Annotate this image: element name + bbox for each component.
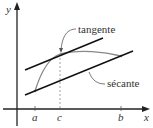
tick-label-b: b <box>118 111 124 123</box>
y-axis-arrow-icon <box>14 2 20 10</box>
y-axis-label: y <box>5 3 11 15</box>
tick-label-a: a <box>32 111 38 123</box>
tangent-leader <box>61 29 76 51</box>
tangent-label: tangente <box>78 23 115 35</box>
x-axis-label: x <box>143 111 149 123</box>
tangent-arrow-icon <box>59 48 63 53</box>
secant-leader <box>89 72 105 84</box>
tick-label-c: c <box>57 111 62 123</box>
mean-value-theorem-diagram: y x a c b tangente sécante <box>0 0 153 128</box>
secant-label: sécante <box>107 77 139 89</box>
tangent-line <box>25 38 103 70</box>
axes <box>3 2 150 126</box>
